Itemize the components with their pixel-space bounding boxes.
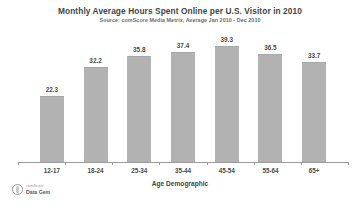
bar-group-12-17: 22.3 (30, 32, 74, 162)
bar-rect[interactable] (258, 54, 282, 162)
x-tick-label-45-54: 45-54 (205, 167, 249, 175)
bar-value-label: 35.8 (133, 46, 145, 53)
bar-value-label: 39.3 (221, 36, 233, 43)
circle-logo-icon (12, 184, 23, 195)
bar-value-label: 36.5 (264, 44, 276, 51)
x-tick-label-65plus: 65+ (292, 167, 336, 175)
bars-row: 22.3 32.2 35.8 37.4 39.3 36.5 (24, 32, 342, 162)
bar-rect[interactable] (127, 56, 151, 162)
axis-tick (112, 162, 113, 165)
x-tick-label-55-64: 55-64 (249, 167, 293, 175)
chart-header: Monthly Average Hours Spent Online per U… (0, 0, 360, 24)
chart-title: Monthly Average Hours Spent Online per U… (0, 6, 360, 16)
axis-tick (301, 162, 302, 165)
x-tick-label-35-44: 35-44 (161, 167, 205, 175)
logo-text: comScore. Data Gem (26, 184, 50, 194)
comscore-data-gem-logo: comScore. Data Gem (12, 184, 50, 195)
bar-value-label: 32.2 (89, 57, 101, 64)
bar-rect[interactable] (215, 46, 239, 162)
bar-rect[interactable] (171, 52, 195, 162)
bar-rect[interactable] (302, 62, 326, 162)
plot-area: 22.3 32.2 35.8 37.4 39.3 36.5 (24, 32, 342, 162)
bar-group-65plus: 33.7 (292, 32, 336, 162)
x-axis-ticks (18, 162, 348, 166)
bar-value-label: 37.4 (177, 42, 189, 49)
bar-rect[interactable] (84, 67, 108, 162)
logo-product-label: Data Gem (26, 189, 50, 195)
axis-tick (254, 162, 255, 165)
axis-tick (65, 162, 66, 165)
bar-group-35-44: 37.4 (161, 32, 205, 162)
bar-group-25-34: 35.8 (117, 32, 161, 162)
axis-tick (159, 162, 160, 165)
bar-group-18-24: 32.2 (74, 32, 118, 162)
bar-value-label: 33.7 (308, 52, 320, 59)
x-tick-label-18-24: 18-24 (74, 167, 118, 175)
x-axis-category-labels: 12-17 18-24 25-34 35-44 45-54 55-64 65+ (24, 167, 342, 175)
axis-tick (18, 162, 19, 165)
bar-group-55-64: 36.5 (249, 32, 293, 162)
chart-subtitle-source: Source: comScore Media Metrix, Average J… (0, 16, 360, 24)
axis-tick (207, 162, 208, 165)
chart-container: Monthly Average Hours Spent Online per U… (0, 0, 360, 206)
axis-tick (348, 162, 349, 165)
x-tick-label-12-17: 12-17 (30, 167, 74, 175)
x-tick-label-25-34: 25-34 (117, 167, 161, 175)
bar-rect[interactable] (40, 96, 64, 162)
bar-value-label: 22.3 (46, 86, 58, 93)
bar-group-45-54: 39.3 (205, 32, 249, 162)
x-axis-title: Age Demographic (0, 180, 360, 188)
